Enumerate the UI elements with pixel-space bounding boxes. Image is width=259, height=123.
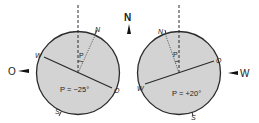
north-label: N (124, 12, 131, 23)
left-direction-label: O (8, 66, 16, 77)
left-label-south: S (55, 108, 60, 115)
left-label-east: O (114, 87, 120, 94)
right-label-north: N (158, 28, 164, 35)
right-label-east: O (216, 57, 222, 64)
right-disk: N W O S P P = +20° (137, 5, 222, 121)
left-direction-arrow-icon (18, 69, 29, 73)
right-angle-symbol: P (173, 51, 178, 58)
north-arrow-icon (127, 24, 131, 34)
right-angle-value: P = +20° (172, 89, 201, 98)
left-angle-value: P = −25° (60, 85, 89, 94)
right-label-south: S (191, 114, 196, 121)
left-label-north: N (95, 26, 101, 33)
right-direction-arrow-icon (228, 71, 238, 75)
left-disk: N W O S P P = −25° (35, 5, 120, 116)
north-indicator: N (124, 12, 131, 34)
right-direction-label: W (240, 68, 250, 79)
left-angle-symbol: P (79, 52, 84, 59)
left-direction-indicator: O (8, 66, 29, 77)
position-angle-diagram: N W O S P P = −25° N O N W O S P P = +20… (0, 0, 259, 123)
right-direction-indicator: W (228, 68, 250, 79)
